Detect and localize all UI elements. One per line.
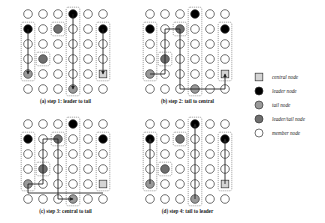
panel-caption: (b) step 2: tail to central — [161, 98, 215, 105]
member-node — [191, 40, 200, 49]
member-node — [84, 25, 93, 34]
member-node — [99, 10, 108, 19]
legend-label: member node — [272, 130, 301, 136]
cluster-box — [66, 117, 80, 206]
leader-node — [221, 25, 230, 34]
panel-d: (d) step 4: tail to leader — [143, 117, 232, 215]
leader-node — [191, 10, 200, 19]
member-node — [161, 150, 170, 159]
member-node — [84, 55, 93, 64]
central-node — [99, 180, 107, 188]
member-node — [24, 150, 33, 159]
member-node — [176, 120, 185, 129]
leader-tail-node — [39, 55, 48, 64]
member-node — [69, 180, 78, 189]
member-node — [99, 165, 108, 174]
member-node — [39, 195, 48, 204]
member-node — [176, 195, 185, 204]
panel-caption: (c) step 3: central to tail — [39, 208, 92, 215]
member-node — [84, 85, 93, 94]
member-node — [221, 40, 230, 49]
member-node — [24, 85, 33, 94]
member-node — [176, 10, 185, 19]
member-node — [99, 120, 108, 129]
member-node — [54, 55, 63, 64]
member-node — [206, 135, 215, 144]
member-node — [84, 10, 93, 19]
member-node — [146, 85, 155, 94]
member-node — [69, 135, 78, 144]
member-node — [206, 195, 215, 204]
member-node — [84, 195, 93, 204]
member-node — [161, 10, 170, 19]
member-node — [176, 165, 185, 174]
member-node — [99, 150, 108, 159]
leader-node — [69, 120, 78, 129]
member-node — [24, 10, 33, 19]
member-node — [206, 150, 215, 159]
panel-a: (a) step 1: leader to tail — [21, 7, 110, 105]
tail-node — [255, 101, 263, 109]
member-node — [69, 150, 78, 159]
panel-b: (b) step 2: tail to central — [143, 7, 232, 105]
member-node — [39, 10, 48, 19]
legend-label: leader/tail node — [272, 116, 306, 122]
member-node — [54, 40, 63, 49]
leader-node — [146, 25, 155, 34]
member-node — [99, 195, 108, 204]
member-node — [24, 120, 33, 129]
member-node — [191, 55, 200, 64]
member-node — [176, 180, 185, 189]
leader-node — [255, 87, 263, 95]
member-node — [206, 70, 215, 79]
leader-tail-node — [161, 165, 170, 174]
cluster-box — [188, 7, 202, 96]
member-node — [54, 85, 63, 94]
legend-item-tail: tail node — [255, 101, 291, 109]
member-node — [54, 10, 63, 19]
member-node — [206, 180, 215, 189]
member-node — [206, 120, 215, 129]
member-node — [146, 40, 155, 49]
member-node — [221, 120, 230, 129]
member-node — [176, 150, 185, 159]
legend-item-leader: leader node — [255, 87, 297, 95]
leader-tail-node — [54, 25, 63, 34]
member-node — [161, 120, 170, 129]
member-node — [161, 85, 170, 94]
member-node — [206, 165, 215, 174]
panel-caption: (a) step 1: leader to tail — [40, 98, 92, 105]
legend-item-member: member node — [255, 129, 301, 137]
leader-node — [99, 135, 108, 144]
member-node — [84, 135, 93, 144]
member-node — [161, 195, 170, 204]
member-node — [54, 120, 63, 129]
member-node — [24, 195, 33, 204]
member-node — [84, 150, 93, 159]
member-node — [24, 165, 33, 174]
member-node — [206, 10, 215, 19]
member-node — [161, 180, 170, 189]
member-node — [191, 25, 200, 34]
legend-label: leader node — [272, 88, 297, 94]
panel-c: (c) step 3: central to tail — [21, 117, 110, 215]
legend-item-leader-tail: leader/tail node — [255, 115, 306, 123]
member-node — [146, 195, 155, 204]
cluster-routing-diagram: (a) step 1: leader to tail(b) step 2: ta… — [0, 0, 325, 223]
member-node — [69, 165, 78, 174]
member-node — [39, 120, 48, 129]
leader-tail-node — [255, 115, 263, 123]
member-node — [161, 135, 170, 144]
member-node — [146, 10, 155, 19]
leader-node — [24, 135, 33, 144]
member-node — [39, 85, 48, 94]
legend: central nodeleader nodetail nodeleader/t… — [255, 73, 306, 137]
leader-tail-node — [176, 135, 185, 144]
member-node — [84, 180, 93, 189]
member-node — [54, 70, 63, 79]
member-node — [84, 165, 93, 174]
member-node — [191, 70, 200, 79]
member-node — [84, 40, 93, 49]
member-node — [221, 10, 230, 19]
legend-label: tail node — [272, 102, 291, 108]
